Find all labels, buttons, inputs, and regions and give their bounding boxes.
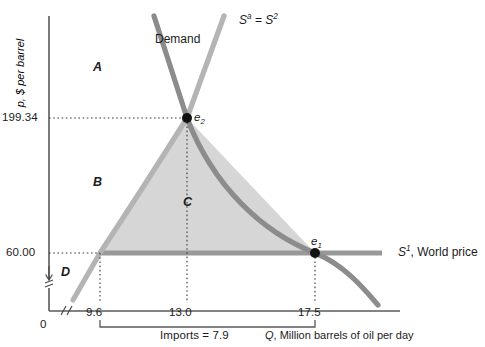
- x-tick-label-13-0: 13.0: [169, 307, 192, 319]
- region-label-b: B: [93, 176, 102, 189]
- x-tick-label-17-5: 17.5: [298, 307, 321, 319]
- shaded-region-c: [100, 118, 315, 253]
- region-label-a: A: [93, 61, 102, 74]
- imports-bracket: [100, 320, 315, 327]
- plot-canvas: [0, 0, 485, 347]
- equilibrium-point-e2: [182, 113, 192, 123]
- supply-curve-label: Sa = S2: [239, 14, 278, 26]
- imports-annotation: Imports = 7.9: [160, 330, 229, 342]
- supply-demand-figure: p, $ per barrel 199.34 60.00 0 9.6 13.0 …: [0, 0, 485, 347]
- world-price-curve-label: S1, World price: [398, 246, 478, 258]
- equilibrium-label-e1: e1: [311, 236, 322, 248]
- region-label-d: D: [61, 266, 70, 279]
- origin-label: 0: [40, 319, 47, 331]
- y-tick-label-199: 199.34: [2, 112, 38, 124]
- x-tick-label-9-6: 9.6: [86, 307, 102, 319]
- y-tick-label-60: 60.00: [6, 247, 35, 259]
- demand-curve-label: Demand: [155, 33, 200, 45]
- region-label-c: C: [183, 196, 192, 209]
- y-axis-break-icon: [45, 280, 53, 287]
- x-axis-title: Q, Million barrels of oil per day: [265, 330, 414, 341]
- y-axis-arrow: [46, 266, 53, 280]
- equilibrium-label-e2: e2: [194, 112, 205, 124]
